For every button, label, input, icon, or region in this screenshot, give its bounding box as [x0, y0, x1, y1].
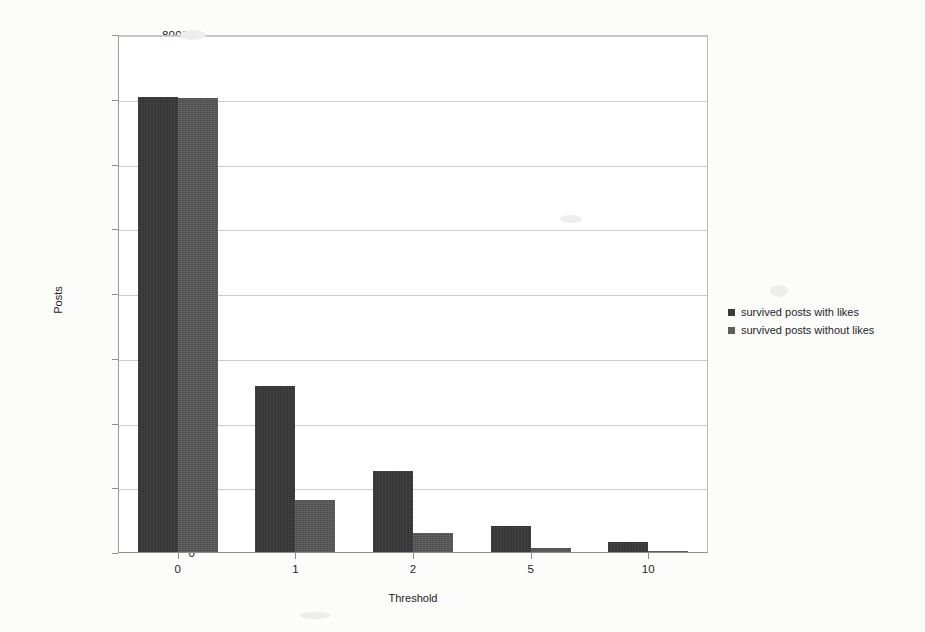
legend: survived posts with likes survived posts…	[728, 303, 874, 339]
bar	[255, 386, 295, 552]
scan-speck	[770, 285, 788, 297]
bar	[373, 471, 413, 552]
bar-series-container	[119, 36, 707, 552]
x-axis-tick-label: 0	[175, 563, 181, 575]
legend-label: survived posts without likes	[741, 325, 874, 336]
x-axis-tick-mark	[178, 553, 179, 559]
x-axis-tick-label: 5	[527, 563, 533, 575]
legend-label: survived posts with likes	[741, 307, 859, 318]
y-axis-label: Posts	[52, 286, 64, 314]
bar	[413, 533, 453, 552]
legend-swatch-icon	[728, 327, 735, 334]
scan-speck	[300, 612, 330, 619]
legend-swatch-icon	[728, 309, 735, 316]
x-axis-tick-label: 2	[410, 563, 416, 575]
bar-group	[255, 36, 335, 552]
legend-item-without-likes: survived posts without likes	[728, 321, 874, 339]
bar	[138, 97, 178, 552]
x-axis-tick-mark	[531, 553, 532, 559]
bar	[648, 551, 688, 552]
y-axis-tick-mark	[112, 553, 118, 554]
x-axis-tick-mark	[295, 553, 296, 559]
legend-item-with-likes: survived posts with likes	[728, 303, 874, 321]
x-axis-label: Threshold	[0, 592, 826, 604]
x-axis-tick-label: 10	[642, 563, 655, 575]
bar-group	[608, 36, 688, 552]
bar	[491, 526, 531, 552]
bar	[608, 542, 648, 552]
chart-container: Posts 0100002000030000400005000060000700…	[0, 0, 925, 632]
bar	[178, 98, 218, 552]
bar-group	[491, 36, 571, 552]
bar	[295, 500, 335, 552]
bar-group	[373, 36, 453, 552]
x-axis-tick-mark	[648, 553, 649, 559]
bar-group	[138, 36, 218, 552]
x-axis-tick-label: 1	[292, 563, 298, 575]
x-axis-tick-mark	[413, 553, 414, 559]
bar	[531, 548, 571, 552]
